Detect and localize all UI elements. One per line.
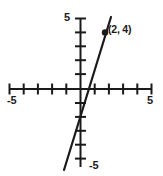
- y-axis-min-label: -5: [89, 160, 98, 171]
- plot-canvas: [0, 0, 163, 176]
- plotted-line-series: [64, 17, 111, 170]
- point-coordinate-label: (2, 4): [108, 24, 131, 35]
- y-axis-max-label: 5: [64, 12, 70, 23]
- x-axis-min-label: -5: [7, 95, 16, 106]
- x-axis-max-label: 5: [147, 95, 153, 106]
- coordinate-graph-figure: 5 5 -5 -5 (2, 4): [0, 0, 163, 176]
- y-axis-group: [75, 18, 86, 167]
